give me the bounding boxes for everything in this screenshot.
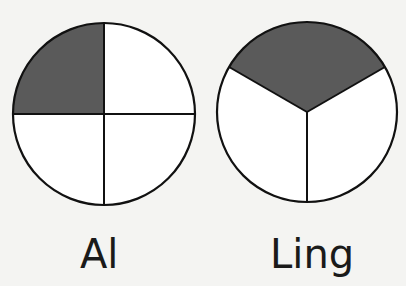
fraction-circles-figure: Al Ling	[0, 0, 406, 286]
al-label: Al	[80, 234, 118, 274]
ling-label: Ling	[270, 234, 354, 274]
al-shaded-quarter	[13, 23, 104, 114]
al-fraction-circle	[13, 23, 195, 205]
ling-fraction-circle	[217, 22, 397, 202]
